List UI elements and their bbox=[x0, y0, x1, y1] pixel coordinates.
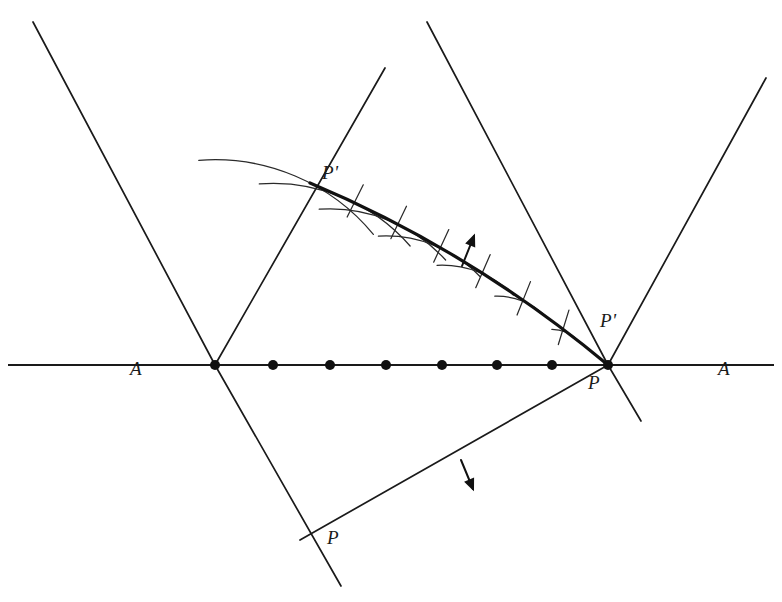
upper-left-ray bbox=[33, 22, 215, 365]
upward-propagation-arrow-head bbox=[467, 236, 474, 246]
source-point-dot bbox=[492, 360, 502, 370]
geometry-svg bbox=[0, 0, 782, 602]
point-label-upper-p-prime: P' bbox=[322, 162, 339, 184]
axis-label-right: A bbox=[718, 358, 730, 380]
downward-propagation-arrow-head bbox=[466, 479, 473, 489]
left-vertex-up-right-ray bbox=[215, 68, 385, 365]
right-vertex-down-right-ray bbox=[608, 365, 641, 421]
source-point-dot bbox=[603, 360, 613, 370]
diagram-canvas: A A P' P' P P bbox=[0, 0, 782, 602]
wavelet-arc bbox=[199, 160, 374, 235]
source-point-dot bbox=[268, 360, 278, 370]
source-point-dot bbox=[547, 360, 557, 370]
right-vertex-up-right-ray bbox=[608, 78, 766, 365]
wavelet-arc-group bbox=[199, 160, 577, 340]
axis-label-left: A bbox=[130, 358, 142, 380]
source-point-dot bbox=[210, 360, 220, 370]
source-point-dot bbox=[381, 360, 391, 370]
point-label-lower-p: P bbox=[327, 527, 339, 549]
point-label-right-p-prime: P' bbox=[600, 310, 617, 332]
left-vertex-down-right-ray bbox=[215, 365, 341, 586]
tangent-tick-group bbox=[347, 185, 569, 345]
right-vertex-down-left-ray bbox=[300, 365, 608, 540]
propagation-arrow-group bbox=[461, 236, 474, 489]
point-label-right-p: P bbox=[588, 372, 600, 394]
ray-group bbox=[33, 22, 766, 586]
source-point-dot bbox=[325, 360, 335, 370]
source-point-dot bbox=[437, 360, 447, 370]
